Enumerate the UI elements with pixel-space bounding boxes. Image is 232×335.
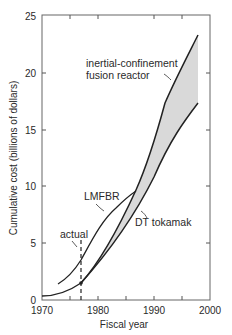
x-tick-1970: 1970 xyxy=(31,305,54,316)
y-tick-20: 20 xyxy=(25,68,37,79)
icf-label-line1: inertial-confinement xyxy=(86,57,178,69)
actual-point xyxy=(79,281,83,285)
base-curve xyxy=(42,283,81,296)
y-axis-title: Cumulative cost (billions of dollars) xyxy=(8,81,19,236)
tokamak-label: DT tokamak xyxy=(135,216,192,228)
icf-label-line2: fusion reactor xyxy=(86,69,150,81)
actual-label: actual xyxy=(60,228,88,240)
y-tick-25: 25 xyxy=(25,11,37,22)
lmfbr-leader xyxy=(96,204,104,211)
y-tick-15: 15 xyxy=(25,125,37,136)
actual-leader xyxy=(72,241,77,247)
y-tick-10: 10 xyxy=(25,181,37,192)
y-tick-5: 5 xyxy=(30,238,36,249)
chart: 0 5 10 15 20 25 1970 1980 1990 2000 Fisc… xyxy=(0,0,232,335)
x-tick-1990: 1990 xyxy=(143,305,166,316)
x-tick-2000: 2000 xyxy=(199,305,222,316)
icf-leader xyxy=(164,74,171,80)
x-tick-1980: 1980 xyxy=(87,305,110,316)
lmfbr-label: LMFBR xyxy=(84,190,120,202)
x-axis-title: Fiscal year xyxy=(100,319,149,330)
